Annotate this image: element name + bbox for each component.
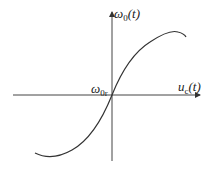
x-axis-label: uc(t) [178,80,201,96]
origin-label: ω0r [91,82,108,98]
transfer-curve [35,31,186,156]
y-axis-label: ω0(t) [114,7,140,23]
